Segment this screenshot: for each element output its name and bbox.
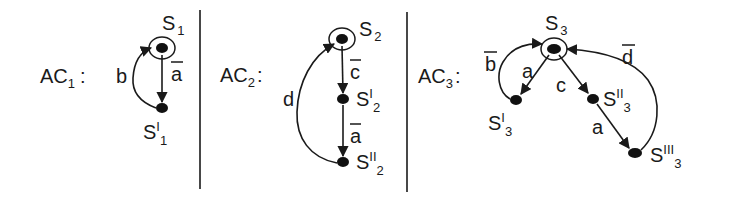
state-node-icon [336, 34, 348, 44]
state-label-s3-double-prime: SII3 [603, 86, 631, 115]
transition-label-a-s3prime: a [522, 60, 534, 82]
state-node-icon [510, 95, 522, 105]
state-node-icon [156, 103, 168, 113]
state-label-s1: S1 [162, 12, 185, 38]
state-label-s3-triple-prime: SIII3 [650, 142, 681, 171]
panel-ac2: AC2: S2 SI2 SII2 d c a [220, 18, 384, 178]
state-label-s2-double-prime: SII2 [356, 149, 384, 178]
transition-s2-to-s2prime [342, 46, 343, 93]
state-s3-double-prime: SII3 [587, 86, 631, 115]
automata-diagram: AC1: S1 SI1 b a AC2: S2 [0, 0, 729, 202]
transition-label-d: d [283, 88, 294, 110]
transition-label-b: b [116, 65, 127, 87]
state-label-s3-prime: SI3 [488, 110, 512, 139]
transition-label-not-d: d [622, 45, 635, 68]
state-s2-double-prime: SII2 [337, 149, 384, 178]
panel-label-ac2: AC2: [220, 64, 263, 90]
state-s3-initial: S3 [541, 12, 568, 60]
transition-label-not-b: b [484, 52, 497, 75]
svg-text:c: c [350, 61, 360, 83]
state-node-icon [587, 94, 599, 104]
state-node-icon [628, 148, 642, 158]
svg-text:b: b [485, 53, 496, 75]
state-node-icon [337, 157, 349, 167]
state-node-icon [547, 44, 561, 54]
state-node-icon [337, 94, 349, 104]
svg-text:a: a [350, 125, 362, 147]
transition-label-not-a: a [171, 62, 183, 85]
panel-label-ac3: AC3: [418, 65, 461, 91]
svg-text:a: a [171, 63, 183, 85]
state-s1-initial: S1 [149, 12, 185, 59]
state-s3-prime: SI3 [488, 95, 522, 139]
transition-label-not-a: a [350, 124, 362, 147]
transition-label-c: c [556, 74, 566, 96]
transition-s2double-to-s2 [297, 44, 337, 163]
state-label-s1-prime: SI1 [143, 119, 167, 148]
state-s1-prime: SI1 [143, 103, 168, 148]
panel-ac1: AC1: S1 SI1 b a [40, 12, 185, 148]
panel-ac3: AC3: S3 SI3 SII3 SIII3 b [418, 12, 681, 171]
svg-text:d: d [622, 46, 633, 68]
transition-s1prime-to-s1 [133, 48, 156, 108]
state-label-s2-prime: SI2 [356, 86, 380, 115]
state-node-icon [156, 43, 168, 53]
state-label-s2: S2 [359, 18, 382, 44]
transition-label-not-c: c [350, 60, 361, 83]
state-s2-initial: S2 [329, 18, 382, 50]
transition-s3prime-to-s3 [499, 44, 542, 99]
state-s3-triple-prime: SIII3 [628, 142, 681, 171]
transition-label-a-s3triple: a [592, 116, 604, 138]
panel-label-ac1: AC1: [40, 65, 86, 91]
state-label-s3: S3 [545, 12, 568, 38]
